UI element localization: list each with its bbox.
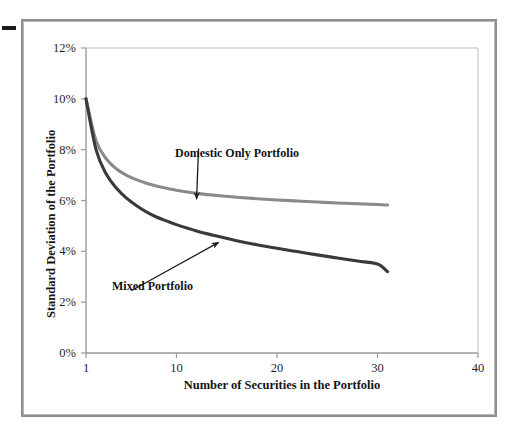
chart-plot-area bbox=[0, 0, 517, 439]
series-line-mixed-portfolio bbox=[86, 99, 388, 272]
chart-annotation-arrows bbox=[131, 148, 218, 290]
chart-axes bbox=[81, 48, 478, 358]
figure-root: 0%2%4%6%8%10%12% 110203040 Number of Sec… bbox=[0, 0, 517, 439]
annotation-label-domestic-only-portfolio: Domestic Only Portfolio bbox=[175, 146, 299, 161]
x-axis-tick-label: 20 bbox=[271, 361, 284, 376]
x-axis-tick-label: 40 bbox=[472, 361, 485, 376]
chart-series-group bbox=[86, 99, 388, 272]
y-axis-tick-label: 10% bbox=[28, 91, 76, 106]
y-axis-title: Standard Deviation of the Portfolio bbox=[44, 130, 59, 318]
y-axis-tick-label: 12% bbox=[28, 41, 76, 56]
x-axis-tick-label: 30 bbox=[371, 361, 384, 376]
y-axis-tick-label: 0% bbox=[28, 346, 76, 361]
x-axis-title: Number of Securities in the Portfolio bbox=[86, 378, 478, 393]
x-axis-tick-label: 1 bbox=[83, 361, 89, 376]
x-axis-tick-label: 10 bbox=[170, 361, 183, 376]
annotation-label-mixed-portfolio: Mixed Portfolio bbox=[112, 279, 193, 294]
